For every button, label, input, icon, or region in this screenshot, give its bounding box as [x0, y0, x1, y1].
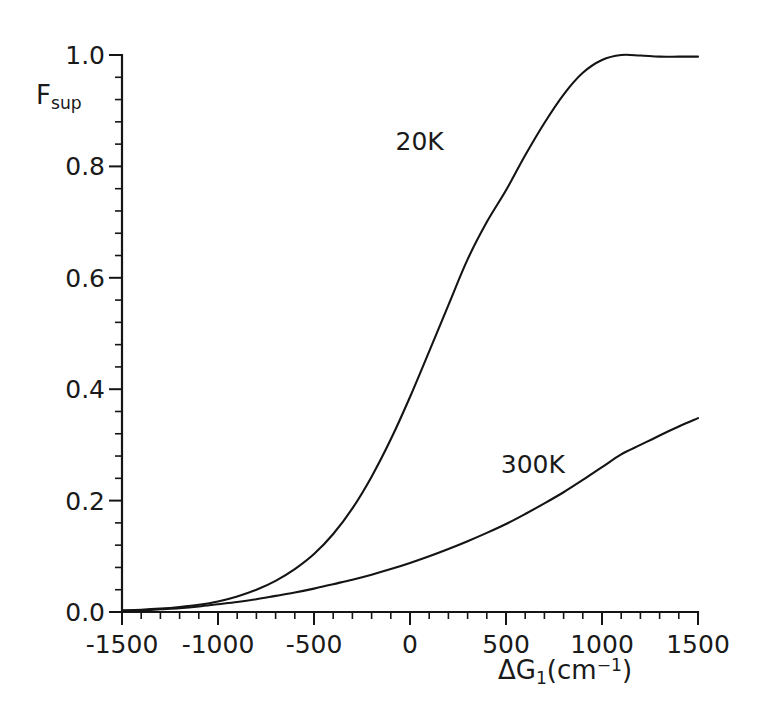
y-axis-title-subscript: sup	[51, 93, 82, 113]
chart-plot-area	[0, 0, 757, 718]
y-tick-label: 0.0	[43, 598, 105, 627]
x-axis-title: ΔG1(cm−1)	[498, 655, 632, 688]
x-axis-title-unit-open: (cm	[547, 655, 597, 685]
series-label-300k: 300K	[501, 450, 565, 479]
x-axis-title-delta-g: ΔG	[498, 655, 536, 685]
y-axis-title-base: F	[36, 80, 51, 110]
y-tick-label: 0.4	[43, 375, 105, 404]
x-axis-title-unit-close: )	[622, 655, 632, 685]
y-axis-title: Fsup	[36, 80, 82, 113]
figure-container: -1500-1000-500050010001500 0.00.20.40.60…	[0, 0, 757, 718]
x-tick-label: -1000	[182, 630, 255, 659]
y-tick-label: 1.0	[43, 41, 105, 70]
x-tick-label: 0	[402, 630, 418, 659]
series-curve-300k	[122, 418, 698, 611]
series-label-20k: 20K	[395, 127, 443, 156]
y-tick-label: 0.8	[43, 152, 105, 181]
x-tick-label: -500	[286, 630, 343, 659]
x-tick-label: 1500	[666, 630, 730, 659]
x-axis-title-subscript-1: 1	[536, 668, 547, 688]
x-tick-label: -1500	[86, 630, 159, 659]
y-tick-label: 0.2	[43, 486, 105, 515]
x-axis-title-superscript-neg1: −1	[597, 655, 622, 675]
y-tick-label: 0.6	[43, 263, 105, 292]
